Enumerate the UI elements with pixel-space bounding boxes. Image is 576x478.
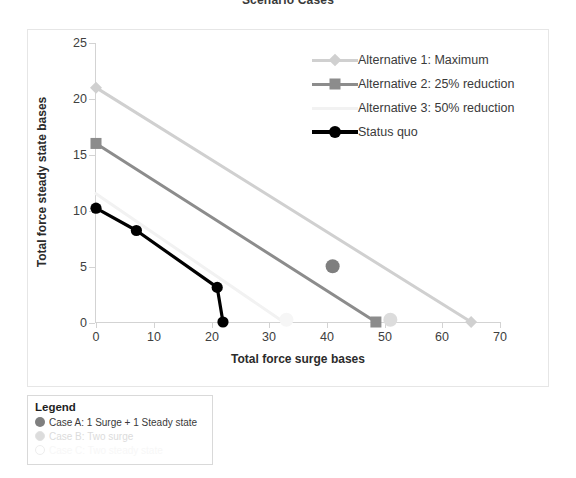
legend-label: Status quo [358, 125, 418, 139]
chart-title: Scenario Cases [0, 0, 576, 7]
y-tick-15: 15 [42, 149, 87, 161]
chart-legend: Alternative 1: Maximum Alternative 2: 25… [312, 48, 542, 144]
legend-label: Alternative 1: Maximum [358, 53, 489, 67]
x-axis-title: Total force surge bases [96, 352, 500, 366]
legend-key-line-icon [312, 100, 358, 116]
x-tickmark [327, 322, 328, 328]
series-marker [90, 203, 101, 214]
y-tick-0: 0 [42, 317, 87, 329]
scatter-point [383, 313, 397, 327]
bottom-legend-item-case-b: Case B: Two surge [35, 429, 205, 443]
y-tickmark [89, 43, 95, 44]
x-tick-label-10: 10 [134, 330, 174, 344]
x-tickmark [212, 322, 213, 328]
legend-label: Alternative 2: 25% reduction [358, 77, 514, 91]
case-b-dot-icon [35, 431, 45, 441]
bottom-legend-item-case-a: Case A: 1 Surge + 1 Steady state [35, 415, 205, 429]
case-c-dot-icon [35, 445, 45, 455]
y-tickmark [89, 99, 95, 100]
series-marker [217, 316, 228, 327]
bottom-legend-title: Legend [35, 401, 205, 413]
scatter-point [279, 313, 293, 327]
legend-item-alternative-3[interactable]: Alternative 3: 50% reduction [312, 96, 542, 120]
y-tick-label: 10 [49, 205, 87, 218]
series-line [96, 208, 223, 322]
legend-key-square-icon [312, 76, 358, 92]
scatter-point [326, 259, 340, 273]
x-tick-label-70: 70 [480, 330, 520, 344]
x-tick-label-0: 0 [76, 330, 116, 344]
y-tick-5: 5 [42, 261, 87, 273]
legend-label: Alternative 3: 50% reduction [358, 101, 514, 115]
series-marker [212, 282, 223, 293]
y-tick-10: 10 [42, 205, 87, 217]
bottom-legend-box: Legend Case A: 1 Surge + 1 Steady state … [27, 395, 213, 465]
x-tick-label-60: 60 [422, 330, 462, 344]
legend-key-circle-icon [312, 124, 358, 140]
legend-item-status-quo[interactable]: Status quo [312, 120, 542, 144]
bottom-legend-item-case-c: Case C: Two steady state [35, 443, 205, 457]
y-axis-title: Total force steady state bases [35, 72, 49, 292]
y-tickmark [89, 155, 95, 156]
case-a-dot-icon [35, 417, 45, 427]
y-tick-20: 20 [42, 93, 87, 105]
y-tick-label: 0 [49, 317, 87, 330]
bottom-legend-label: Case B: Two surge [49, 431, 133, 442]
x-tick-label-20: 20 [192, 330, 232, 344]
y-tick-label: 20 [49, 93, 87, 106]
series-marker [131, 225, 142, 236]
y-tick-label: 5 [49, 261, 87, 274]
y-tickmark [89, 323, 95, 324]
series-marker [370, 317, 381, 328]
y-tick-25: 25 [42, 37, 87, 49]
x-tickmark [96, 322, 97, 328]
bottom-legend-label: Case C: Two steady state [49, 445, 163, 456]
legend-key-diamond-icon [312, 52, 358, 68]
x-tickmark [154, 322, 155, 328]
x-axis-line [95, 322, 501, 323]
legend-item-alternative-2[interactable]: Alternative 2: 25% reduction [312, 72, 542, 96]
y-tick-label: 15 [49, 149, 87, 162]
bottom-legend-label: Case A: 1 Surge + 1 Steady state [49, 417, 197, 428]
series-marker [91, 138, 102, 149]
y-tickmark [89, 267, 95, 268]
y-tick-label: 25 [49, 37, 87, 50]
x-tick-label-40: 40 [307, 330, 347, 344]
x-tick-label-50: 50 [365, 330, 405, 344]
x-tick-label-30: 30 [249, 330, 289, 344]
x-tickmark [442, 322, 443, 328]
x-tickmark [500, 322, 501, 328]
legend-item-alternative-1[interactable]: Alternative 1: Maximum [312, 48, 542, 72]
series-line [96, 194, 284, 322]
x-tickmark [269, 322, 270, 328]
